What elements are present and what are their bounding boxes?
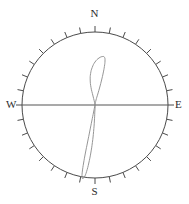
compass-diagram (0, 0, 189, 204)
tick-mark (156, 146, 161, 149)
tick-mark (39, 49, 43, 53)
tick-mark (22, 133, 28, 135)
tick-mark (39, 157, 43, 161)
tick-mark (65, 172, 67, 178)
tick-mark (123, 172, 125, 178)
tick-mark (51, 39, 54, 44)
compass-plot: N S W E (0, 0, 189, 204)
tick-mark (162, 75, 168, 77)
tick-mark (22, 75, 28, 77)
tick-mark (109, 28, 110, 34)
cardinal-label-south: S (0, 186, 189, 197)
tick-mark (136, 39, 139, 44)
tick-mark (147, 49, 151, 53)
tick-mark (29, 146, 34, 149)
tick-mark (18, 119, 24, 120)
tick-mark (123, 32, 125, 38)
tick-mark (65, 32, 67, 38)
cardinal-label-north: N (0, 8, 189, 19)
tick-mark (109, 177, 110, 183)
tick-mark (80, 28, 81, 34)
tick-mark (18, 90, 24, 91)
tick-mark (51, 166, 54, 171)
tick-mark (80, 177, 81, 183)
tick-mark (136, 166, 139, 171)
tick-mark (29, 61, 34, 64)
tick-mark (147, 157, 151, 161)
tick-mark (167, 119, 173, 120)
tick-mark (156, 61, 161, 64)
tick-mark (167, 90, 173, 91)
cardinal-label-east: E (175, 99, 182, 110)
orientation-trace-curve (82, 56, 105, 178)
cardinal-label-west: W (6, 99, 16, 110)
tick-mark (162, 133, 168, 135)
